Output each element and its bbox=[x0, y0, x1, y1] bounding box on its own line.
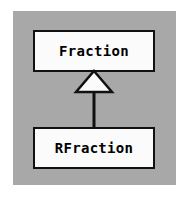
class-name-rfraction: RFraction bbox=[55, 141, 134, 155]
uml-class-diagram: Fraction RFraction bbox=[0, 0, 187, 197]
class-box-fraction[interactable]: Fraction bbox=[33, 30, 155, 72]
class-name-fraction: Fraction bbox=[59, 44, 129, 58]
class-box-rfraction[interactable]: RFraction bbox=[33, 127, 155, 169]
